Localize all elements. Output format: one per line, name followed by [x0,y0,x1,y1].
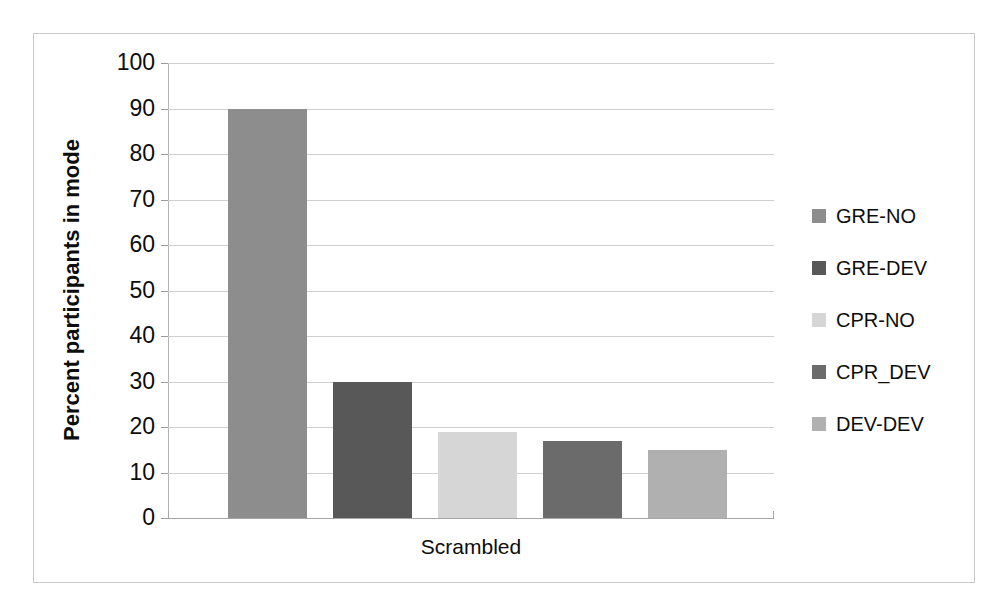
legend-swatch-icon [812,417,826,431]
gridline [168,63,774,64]
y-axis-tick [161,473,168,474]
legend-swatch-icon [812,209,826,223]
y-axis-tick-label: 10 [95,461,155,484]
y-axis-tick [161,427,168,428]
legend-label: GRE-NO [836,205,916,228]
legend-item: GRE-NO [812,190,962,242]
y-axis-tick [161,154,168,155]
y-axis-tick [161,109,168,110]
bar-cpr-no [438,432,517,518]
y-axis-tick-label: 90 [95,97,155,120]
y-axis-tick-label: 70 [95,188,155,211]
x-axis-category-label: Scrambled [168,535,774,559]
y-axis-tick [161,336,168,337]
y-axis-tick-label: 20 [95,415,155,438]
axis-end-cap [168,511,169,519]
y-axis-tick [161,291,168,292]
legend-item: CPR_DEV [812,346,962,398]
bar-cpr-dev [543,441,622,518]
bar-gre-dev [333,382,412,519]
y-axis-tick-labels: 1009080706050403020100 [93,0,155,610]
y-axis-tick [161,245,168,246]
y-axis-title: Percent participants in mode [59,139,85,441]
legend-label: GRE-DEV [836,257,927,280]
y-axis-tick [161,63,168,64]
plot-area [168,63,774,518]
legend-item: GRE-DEV [812,242,962,294]
legend-swatch-icon [812,261,826,275]
y-axis-tick-label: 100 [95,51,155,74]
legend-label: CPR-NO [836,309,915,332]
legend-label: CPR_DEV [836,361,930,384]
legend-swatch-icon [812,313,826,327]
y-axis-tick-label: 60 [95,233,155,256]
y-axis-tick-label: 50 [95,279,155,302]
bar-gre-no [228,109,307,519]
y-axis-tick-label: 30 [95,370,155,393]
bar-dev-dev [648,450,727,518]
y-axis-tick-label: 80 [95,142,155,165]
y-axis-tick [161,518,168,519]
y-axis-tick-label: 40 [95,324,155,347]
y-axis-tick-label: 0 [95,506,155,529]
legend-swatch-icon [812,365,826,379]
legend-item: DEV-DEV [812,398,962,450]
axis-end-cap [773,511,774,519]
y-axis-tick [161,200,168,201]
legend-label: DEV-DEV [836,413,924,436]
x-axis-baseline [168,518,774,519]
legend-item: CPR-NO [812,294,962,346]
y-axis-tick [161,382,168,383]
legend: GRE-NOGRE-DEVCPR-NOCPR_DEVDEV-DEV [812,190,962,450]
